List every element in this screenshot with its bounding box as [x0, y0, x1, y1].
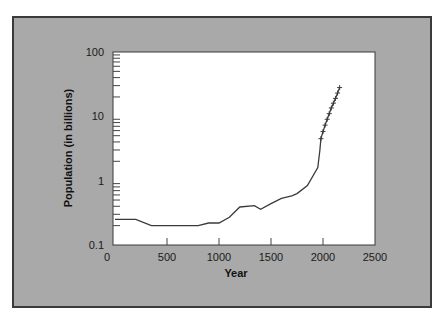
y-tick-label: 1 — [98, 175, 104, 187]
x-tick-label: 2000 — [311, 251, 335, 263]
population-chart: 0.1110100 05001000150020002500 Year Popu… — [0, 0, 438, 318]
plot-area — [113, 52, 375, 245]
y-tick-label: 0.1 — [89, 239, 104, 251]
y-axis-labels: 0.1110100 — [86, 46, 104, 251]
x-tick-label: 0 — [104, 251, 110, 263]
x-tick-label: 1500 — [259, 251, 283, 263]
y-axis-title: Population (in billions) — [62, 88, 74, 207]
x-tick-label: 2500 — [363, 251, 387, 263]
x-tick-label: 500 — [158, 251, 176, 263]
x-tick-label: 1000 — [207, 251, 231, 263]
y-tick-label: 100 — [86, 46, 104, 58]
y-tick-label: 10 — [92, 110, 104, 122]
x-axis-labels: 05001000150020002500 — [104, 251, 387, 263]
x-axis-title: Year — [224, 267, 248, 279]
